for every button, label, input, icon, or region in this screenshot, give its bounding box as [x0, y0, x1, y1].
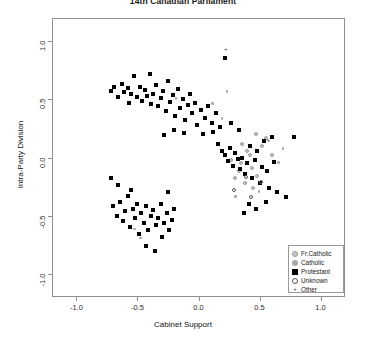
x-tick-label: 1.0 [301, 303, 341, 312]
data-point [144, 204, 148, 208]
data-point [243, 181, 247, 185]
data-point [137, 232, 141, 236]
data-point [258, 190, 261, 193]
data-point [131, 207, 135, 211]
data-point [223, 47, 228, 52]
data-point [144, 244, 148, 248]
data-point [129, 188, 133, 192]
data-point [244, 175, 248, 179]
data-point [127, 101, 131, 105]
data-point [249, 195, 253, 199]
data-point [206, 104, 210, 108]
data-point [240, 156, 244, 160]
data-point [254, 207, 258, 211]
data-point [260, 144, 264, 148]
chart-canvas: 14th Canadian Parliament -1.0-0.50.00.51… [0, 0, 366, 341]
data-point [226, 159, 230, 163]
data-point [148, 72, 152, 76]
data-point [139, 237, 142, 240]
data-point [109, 176, 113, 180]
data-point [282, 147, 285, 150]
data-point [229, 121, 233, 125]
y-tick-label: -0.5 [38, 215, 47, 237]
data-point [116, 95, 120, 99]
data-point [165, 211, 169, 215]
data-point [153, 249, 157, 253]
data-point [229, 158, 233, 162]
data-point [151, 92, 155, 96]
data-point [245, 161, 249, 165]
data-point [161, 89, 165, 93]
legend-marker-icon [292, 251, 298, 257]
data-point [135, 202, 139, 206]
data-point [178, 106, 182, 110]
data-point [292, 135, 296, 139]
x-tick-mark [137, 297, 138, 301]
data-point [154, 83, 158, 87]
data-point [267, 139, 270, 142]
data-point [193, 101, 197, 105]
data-point [149, 102, 153, 106]
data-point [126, 194, 130, 198]
data-point [275, 190, 279, 194]
data-point [234, 195, 237, 198]
data-point [236, 157, 240, 161]
data-point [140, 99, 144, 103]
data-point [111, 204, 115, 208]
data-point [138, 85, 142, 89]
legend-item: Other [292, 285, 344, 294]
data-point [245, 149, 249, 153]
data-point [135, 95, 139, 99]
data-point [122, 90, 126, 94]
data-point [156, 216, 160, 220]
data-point [123, 209, 127, 213]
y-tick-label-wrap: -1.0 [20, 269, 46, 279]
data-point [195, 123, 199, 127]
data-point [173, 114, 177, 118]
data-point [181, 97, 185, 101]
data-point [170, 218, 174, 222]
y-tick-mark [48, 41, 52, 42]
data-point [162, 221, 166, 225]
data-point [250, 166, 254, 170]
legend-marker-icon [292, 278, 298, 284]
data-point [240, 142, 244, 146]
data-point [168, 100, 172, 104]
data-point [201, 132, 205, 136]
data-point [188, 92, 192, 96]
data-point [164, 109, 168, 113]
y-axis-title: Intra-Party Division [16, 95, 25, 215]
data-point [142, 221, 146, 225]
data-point [272, 160, 276, 164]
legend-label: Other [301, 285, 317, 294]
chart-legend: Fr.CatholicCatholicProtestantUnknownOthe… [288, 245, 344, 293]
data-point [143, 88, 147, 92]
data-point [216, 142, 220, 146]
data-point [175, 97, 178, 100]
data-point [218, 125, 222, 129]
data-point [284, 195, 288, 199]
legend-item: Fr.Catholic [292, 249, 344, 258]
data-point [128, 225, 132, 229]
y-tick-label: 1.0 [38, 41, 47, 63]
data-point [186, 103, 190, 107]
y-tick-label: 0.0 [38, 157, 47, 179]
data-point [253, 158, 257, 162]
legend-label: Unknown [301, 276, 328, 285]
x-tick-mark [321, 297, 322, 301]
data-point [262, 139, 266, 143]
data-point [172, 128, 176, 132]
data-point [214, 111, 218, 115]
y-tick-mark [48, 99, 52, 100]
data-point [239, 161, 243, 165]
data-point [210, 121, 214, 125]
data-point [264, 200, 268, 204]
data-point [221, 117, 224, 120]
data-point [121, 219, 125, 223]
chart-title: 14th Canadian Parliament [0, 0, 366, 6]
y-tick-label: 0.5 [38, 99, 47, 121]
legend-item: Catholic [292, 258, 344, 267]
data-point [255, 149, 259, 153]
data-point [220, 149, 224, 153]
data-point [149, 214, 153, 218]
